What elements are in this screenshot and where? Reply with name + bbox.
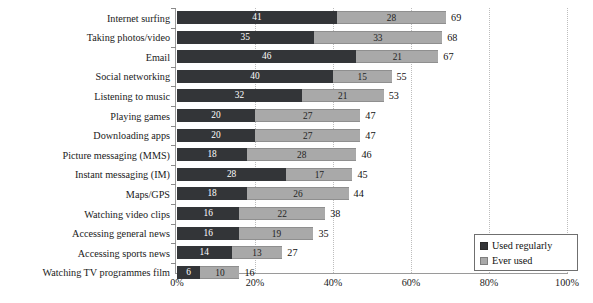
stacked-bar: 202747	[177, 129, 375, 142]
bar-total-label: 68	[447, 31, 457, 44]
x-tick-label: 60%	[388, 277, 434, 288]
legend-item-used-regularly: Used regularly	[480, 238, 577, 253]
bar-total-label: 69	[451, 11, 461, 24]
bar-total-label: 55	[397, 70, 407, 83]
y-axis-tick	[171, 165, 176, 166]
bar-segment-ever-used: 22	[239, 207, 325, 220]
bar-segment-ever-used: 27	[255, 129, 360, 142]
bar-segment-value: 27	[255, 130, 360, 143]
category-label: Accessing sports news	[0, 248, 170, 259]
bar-segment-value: 13	[232, 247, 283, 260]
bar-segment-value: 28	[247, 149, 356, 162]
horizontal-stacked-bar-chart: Internet surfing412869Taking photos/vide…	[0, 0, 593, 303]
bar-segment-ever-used: 27	[255, 109, 360, 122]
bar-segment-used-regularly: 35	[177, 31, 314, 44]
category-label: Accessing general news	[0, 228, 170, 239]
bar-segment-value: 40	[177, 70, 333, 83]
bar-segment-used-regularly: 20	[177, 129, 255, 142]
stacked-bar: 161935	[177, 227, 329, 240]
stacked-bar: 182644	[177, 187, 364, 200]
bar-segment-ever-used: 19	[239, 227, 313, 240]
bar-segment-value: 20	[177, 109, 255, 122]
bar-segment-used-regularly: 46	[177, 50, 356, 63]
bar-segment-value: 33	[314, 32, 443, 45]
category-label: Listening to music	[0, 91, 170, 102]
legend-swatch-icon-ever-used	[480, 257, 488, 265]
category-label: Watching video clips	[0, 209, 170, 220]
category-label: Maps/GPS	[0, 189, 170, 200]
bar-segment-used-regularly: 28	[177, 168, 286, 181]
y-axis-tick	[171, 263, 176, 264]
y-axis-tick	[171, 184, 176, 185]
bar-segment-used-regularly: 20	[177, 109, 255, 122]
bar-segment-used-regularly: 14	[177, 246, 232, 259]
chart-legend: Used regularly Ever used	[474, 234, 578, 271]
category-label: Email	[0, 52, 170, 63]
bar-segment-ever-used: 21	[356, 50, 438, 63]
bar-row: Listening to music322153	[0, 86, 593, 106]
bar-total-label: 53	[389, 89, 399, 102]
bar-total-label: 44	[354, 187, 364, 200]
category-label: Instant messaging (IM)	[0, 169, 170, 180]
bar-segment-used-regularly: 41	[177, 11, 337, 24]
x-tick-label: 0%	[154, 277, 200, 288]
legend-swatch-icon-used-regularly	[480, 242, 488, 250]
bar-segment-value: 19	[239, 228, 313, 241]
bar-segment-ever-used: 21	[302, 89, 384, 102]
bar-segment-value: 28	[337, 12, 446, 25]
stacked-bar: 412869	[177, 11, 461, 24]
category-label: Picture messaging (MMS)	[0, 150, 170, 161]
bar-segment-value: 14	[177, 246, 232, 259]
category-label: Taking photos/video	[0, 32, 170, 43]
bar-segment-value: 15	[333, 71, 392, 84]
legend-item-ever-used: Ever used	[480, 253, 577, 268]
stacked-bar: 401555	[177, 70, 407, 83]
bar-row: Playing games202747	[0, 106, 593, 126]
bar-segment-ever-used: 28	[337, 11, 446, 24]
bar-segment-ever-used: 13	[232, 246, 283, 259]
bar-segment-used-regularly: 16	[177, 207, 239, 220]
y-axis-tick	[171, 8, 176, 9]
category-label: Playing games	[0, 111, 170, 122]
bar-segment-value: 41	[177, 11, 337, 24]
bar-segment-value: 46	[177, 50, 356, 63]
bar-total-label: 47	[365, 109, 375, 122]
bar-segment-value: 16	[177, 227, 239, 240]
bar-segment-value: 27	[255, 110, 360, 123]
x-tick-label: 20%	[232, 277, 278, 288]
category-label: Internet surfing	[0, 13, 170, 24]
bar-row: Email462167	[0, 47, 593, 67]
bar-total-label: 67	[443, 50, 453, 63]
y-axis-tick	[171, 204, 176, 205]
bar-segment-value: 17	[286, 169, 352, 182]
bar-row: Social networking401555	[0, 67, 593, 87]
bar-total-label: 27	[287, 246, 297, 259]
bar-segment-value: 21	[356, 51, 438, 64]
bar-segment-ever-used: 28	[247, 148, 356, 161]
x-tick-label: 100%	[544, 277, 590, 288]
bar-segment-value: 22	[239, 208, 325, 221]
x-tick-label: 40%	[310, 277, 356, 288]
stacked-bar: 182846	[177, 148, 372, 161]
bar-segment-used-regularly: 32	[177, 89, 302, 102]
bar-segment-value: 18	[177, 187, 247, 200]
bar-segment-ever-used: 15	[333, 70, 392, 83]
bar-row: Downloading apps202747	[0, 126, 593, 146]
bar-segment-used-regularly: 18	[177, 148, 247, 161]
bar-row: Watching video clips162238	[0, 204, 593, 224]
y-axis-tick	[171, 106, 176, 107]
category-label: Watching TV programmes film	[0, 267, 170, 278]
bar-segment-ever-used: 17	[286, 168, 352, 181]
y-axis-tick	[171, 67, 176, 68]
y-axis-tick	[171, 86, 176, 87]
bar-total-label: 38	[330, 207, 340, 220]
stacked-bar: 202747	[177, 109, 375, 122]
y-axis-tick	[171, 126, 176, 127]
y-axis-tick	[171, 145, 176, 146]
y-axis-tick	[171, 47, 176, 48]
bar-row: Taking photos/video353368	[0, 28, 593, 48]
bar-total-label: 47	[365, 129, 375, 142]
legend-label-ever-used: Ever used	[492, 255, 532, 266]
legend-label-used-regularly: Used regularly	[492, 240, 552, 251]
bar-segment-used-regularly: 40	[177, 70, 333, 83]
